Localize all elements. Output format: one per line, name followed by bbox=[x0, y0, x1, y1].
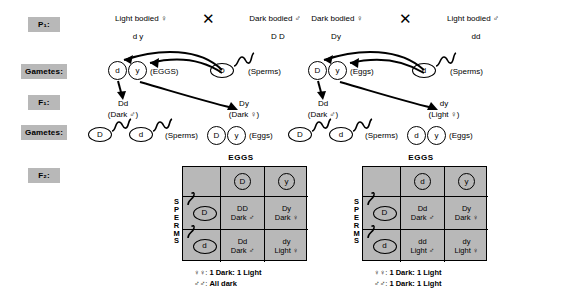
right-sperms-label: (Sperms) bbox=[450, 67, 483, 76]
right-f1-sperms-label: (Sperms) bbox=[365, 131, 398, 140]
right-punnett-square: d y D Dd Dark ♂ Dy Dark ♀ d dd Light ♂ bbox=[362, 166, 487, 261]
right-punnett-cell-1-2-phenotype: Dark ♀ bbox=[455, 213, 479, 222]
right-egg-allele-D: D bbox=[308, 61, 327, 80]
right-sperm-allele-d: d bbox=[412, 63, 436, 78]
right-punnett-egg-y: y bbox=[458, 173, 475, 190]
right-punnett-sperm-tail-1 bbox=[365, 191, 385, 207]
right-punnett-cell-1-2-genotype: Dy bbox=[462, 204, 471, 213]
right-egg-allele-y: y bbox=[328, 61, 347, 80]
right-punnett-cell-1-1-phenotype: Dark ♂ bbox=[411, 213, 435, 222]
table-cell: dd Light ♂ bbox=[400, 229, 444, 262]
right-ratio-legend: ♀♀: 1 Dark: 1 Light ♂♂: 1 Dark: 1 Light bbox=[374, 268, 442, 290]
right-ratio-2-sex: ♂♂: bbox=[374, 279, 387, 288]
right-punnett-sperms-header: S P E R M S bbox=[352, 198, 361, 245]
right-f1-offspring-2-genotype: dy bbox=[440, 99, 448, 108]
right-f1-egg-allele-y: y bbox=[427, 126, 446, 145]
right-f1-eggs-label: (Eggs) bbox=[449, 131, 473, 140]
right-punnett-sperm-D: D bbox=[373, 206, 397, 221]
right-punnett-cell-2-1-genotype: dd bbox=[418, 237, 426, 246]
right-f1-offspring-2-phenotype: (Light ♀) bbox=[429, 110, 460, 119]
table-cell: dy Light ♀ bbox=[444, 229, 488, 262]
table-cell: Dy Dark ♀ bbox=[444, 196, 488, 229]
right-f1-sperm-allele-D: D bbox=[288, 127, 312, 142]
genetics-cross-diagram: P₁: Gametes: F₁: Gametes: F₂: Light bodi… bbox=[0, 0, 567, 301]
right-punnett-sperm-tail-2 bbox=[365, 224, 385, 240]
right-punnett-col-header-2: y bbox=[444, 167, 488, 196]
right-punnett-cell-2-2-phenotype: Light ♀ bbox=[455, 246, 479, 255]
right-f1-egg-allele-d: d bbox=[407, 126, 426, 145]
right-f1-sperm-allele-d: d bbox=[329, 127, 353, 142]
right-punnett-egg-d: d bbox=[414, 173, 431, 190]
right-eggs-label: (Eggs) bbox=[350, 67, 374, 76]
right-ratio-1-sex: ♀♀: bbox=[374, 268, 387, 277]
right-punnett-col-header-1: d bbox=[400, 167, 444, 196]
right-punnett-cell-2-1-phenotype: Light ♂ bbox=[411, 246, 435, 255]
right-punnett-cell-1-1-genotype: Dd bbox=[418, 204, 428, 213]
right-punnett-eggs-header: EGGS bbox=[408, 153, 434, 162]
right-ratio-2-result: 1 Dark: 1 Light bbox=[389, 279, 441, 288]
right-punnett-cell-2-2-genotype: dy bbox=[463, 237, 471, 246]
table-cell: Dd Dark ♂ bbox=[400, 196, 444, 229]
right-punnett-sperm-d: d bbox=[373, 239, 397, 254]
right-ratio-1-result: 1 Dark: 1 Light bbox=[389, 268, 441, 277]
right-f1-offspring-1-genotype: Dd bbox=[318, 99, 328, 108]
